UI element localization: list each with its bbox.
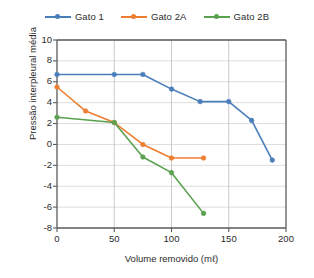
data-point — [112, 72, 117, 77]
x-tick-label: 50 — [99, 233, 129, 244]
x-tick-label: 100 — [157, 233, 187, 244]
x-tick-label: 0 — [42, 233, 72, 244]
x-tick-label: 200 — [271, 233, 301, 244]
data-point — [55, 115, 60, 120]
y-axis-label: Pressão interpleural média — [27, 0, 38, 179]
data-point — [226, 99, 231, 104]
plot-area: 1086420-2-4-6-8 050100150200 Pressão int… — [0, 0, 314, 278]
x-axis-label: Volume removido (mℓ) — [57, 253, 286, 264]
data-point — [55, 72, 60, 77]
data-point — [169, 87, 174, 92]
data-point — [83, 109, 88, 114]
data-point — [112, 120, 117, 125]
data-point — [198, 99, 203, 104]
chart-figure: Gato 1 Gato 2A Gato 2B 1086420-2-4-6-8 0… — [0, 0, 314, 278]
data-point — [169, 156, 174, 161]
data-point — [141, 142, 146, 147]
data-point — [55, 85, 60, 90]
y-tick-label: -4 — [26, 180, 52, 191]
x-tick-label: 150 — [214, 233, 244, 244]
data-point — [141, 155, 146, 160]
data-point — [201, 156, 206, 161]
series-line-gato-2a — [57, 87, 204, 158]
y-tick-label: -6 — [26, 201, 52, 212]
series-line-gato-1 — [57, 74, 272, 160]
data-point — [270, 158, 275, 163]
data-point — [169, 170, 174, 175]
data-point — [201, 211, 206, 216]
data-point — [249, 118, 254, 123]
data-point — [141, 72, 146, 77]
y-tick-label: -8 — [26, 222, 52, 233]
